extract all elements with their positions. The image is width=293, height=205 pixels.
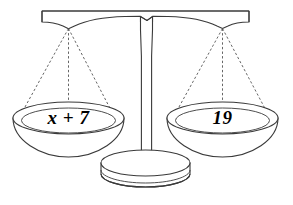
left-pan: x + 7 [13, 102, 124, 157]
right-pan-label: 19 [213, 107, 233, 128]
left-pan-label: x + 7 [47, 107, 91, 128]
base [101, 150, 190, 187]
balance-scale-figure: x + 7 19 [0, 0, 293, 205]
post-body [141, 17, 153, 167]
right-pan: 19 [167, 102, 278, 157]
balance-scale-svg: x + 7 19 [0, 0, 293, 205]
base-top-ellipse [101, 150, 190, 176]
post [141, 17, 153, 167]
